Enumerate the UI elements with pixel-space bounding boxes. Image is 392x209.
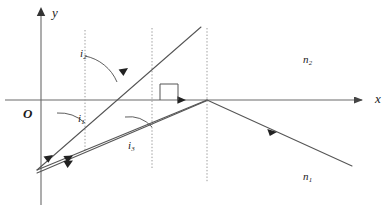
angle-arc-i2: [85, 56, 117, 82]
right-angle-marker: [160, 84, 178, 100]
angle-arcs-group: [57, 56, 152, 127]
medium-label-n2-sub: 2: [309, 59, 312, 66]
arrowhead-steep-ray: [119, 68, 128, 76]
angle-label-i2: i2: [80, 48, 86, 59]
angle-label-i3: i3: [128, 140, 134, 151]
arrowhead-axis-ray: [177, 96, 186, 103]
angle-label-i1: i1: [78, 113, 84, 124]
origin-label: O: [23, 107, 32, 120]
medium-label-n1-sub: 1: [309, 176, 312, 183]
angle-label-i3-sub: 3: [131, 145, 134, 152]
angle-label-i1-sub: 1: [81, 118, 84, 125]
medium-label-n1-base: n: [303, 170, 309, 182]
y-axis-label: y: [52, 6, 58, 19]
incident-ray-shallow: [37, 101, 206, 173]
arrowhead-shallow-ray: [63, 161, 73, 169]
angle-label-i2-sub: 2: [83, 53, 86, 60]
refracted-ray: [207, 100, 352, 166]
right-angle-square: [160, 84, 178, 100]
incident-ray-middle: [37, 100, 207, 170]
medium-label-n2: n2: [303, 54, 312, 65]
medium-label-n2-base: n: [303, 53, 309, 65]
normal-lines-group: [85, 28, 207, 182]
y-axis-arrowhead: [37, 7, 45, 16]
arrowhead-steep-ray-near-source: [44, 155, 54, 163]
diagram-canvas: [0, 0, 392, 209]
incident-ray-steep: [37, 27, 201, 170]
ray-diagram-figure: y x O i2 i1 i3 n2 n1: [0, 0, 392, 209]
medium-label-n1: n1: [303, 171, 312, 182]
x-axis-label: x: [375, 92, 381, 105]
